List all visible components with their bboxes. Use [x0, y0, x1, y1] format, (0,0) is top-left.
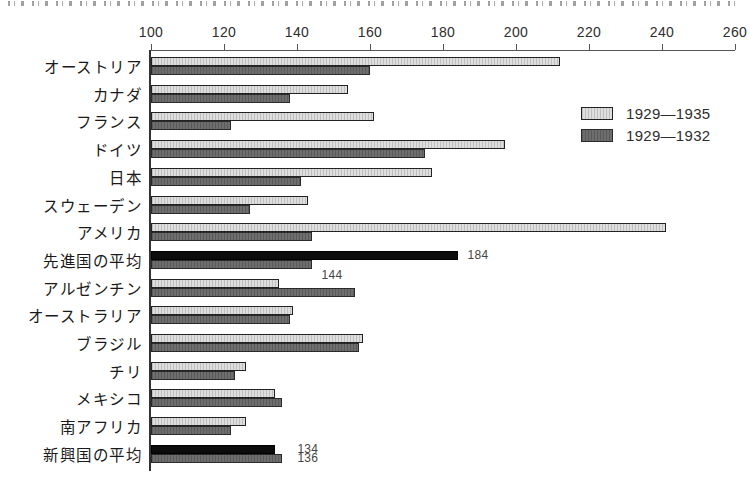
bar-1929—1935 [151, 334, 363, 343]
category-label: フランス [76, 110, 142, 132]
legend-swatch-dark [581, 129, 613, 142]
bar-1929—1932 [151, 454, 282, 463]
bar-1929—1935 [151, 445, 275, 454]
chart-row: 先進国の平均184144 [151, 251, 735, 271]
axis-tick-label: 180 [431, 24, 455, 40]
bar-1929—1932 [151, 371, 235, 380]
category-label: ドイツ [93, 138, 143, 160]
category-label: アメリカ [77, 221, 142, 243]
legend-item: 1929—1935 [581, 107, 710, 120]
chart-row: オーストラリア [151, 306, 735, 326]
bar-1929—1932 [151, 343, 359, 352]
chart-row: スウェーデン [151, 196, 735, 216]
axis-tick [151, 44, 152, 50]
legend-item: 1929—1932 [581, 129, 710, 142]
category-label: オーストラリア [28, 304, 143, 326]
axis-tick-label: 260 [723, 24, 747, 40]
category-label: 日本 [109, 166, 142, 188]
bar-1929—1932 [151, 260, 312, 269]
bar-1929—1932 [151, 288, 355, 297]
chart-row: アルゼンチン [151, 279, 735, 299]
chart-row: ブラジル [151, 334, 735, 354]
category-label: メキシコ [76, 387, 142, 409]
axis-tick-label: 120 [212, 24, 236, 40]
axis-tick [370, 44, 371, 50]
category-label: 南アフリカ [60, 415, 143, 437]
chart-row: カナダ [151, 85, 735, 105]
bar-1929—1935 [151, 362, 246, 371]
chart-row: 新興国の平均134136 [151, 445, 735, 465]
bar-1929—1932 [151, 426, 231, 435]
bar-1929—1935 [151, 389, 275, 398]
axis-tick [297, 44, 298, 50]
axis-tick-label: 160 [358, 24, 382, 40]
bar-1929—1935 [151, 85, 348, 94]
bar-1929—1932 [151, 232, 312, 241]
legend-label: 1929—1932 [626, 127, 710, 144]
chart-figure: 100120140160180200220240260オーストリアカナダフランス… [0, 0, 750, 493]
bar-1929—1932 [151, 177, 301, 186]
top-axis-line [151, 50, 735, 51]
axis-tick [589, 44, 590, 50]
axis-tick [443, 44, 444, 50]
axis-tick [224, 44, 225, 50]
axis-tick [735, 44, 736, 50]
axis-tick [516, 44, 517, 50]
axis-tick-label: 100 [139, 24, 163, 40]
legend-label: 1929—1935 [626, 105, 710, 122]
axis-tick-label: 240 [650, 24, 674, 40]
chart-row: 南アフリカ [151, 417, 735, 437]
axis-tick-label: 220 [577, 24, 601, 40]
value-label: 136 [297, 452, 318, 464]
bar-1929—1935 [151, 112, 374, 121]
category-label: ブラジル [76, 332, 142, 354]
bar-1929—1935 [151, 140, 505, 149]
value-label: 184 [468, 249, 489, 261]
legend: 1929—19351929—1932 [581, 107, 710, 151]
bar-1929—1935 [151, 223, 666, 232]
bar-1929—1932 [151, 94, 290, 103]
chart-row: メキシコ [151, 389, 735, 409]
axis-tick [662, 44, 663, 50]
category-label: チリ [109, 360, 142, 382]
chart-row: 日本 [151, 168, 735, 188]
bar-1929—1935 [151, 306, 293, 315]
chart-row: オーストリア [151, 57, 735, 77]
legend-swatch-light [581, 107, 613, 120]
bar-1929—1935 [151, 417, 246, 426]
axis-tick-label: 140 [285, 24, 309, 40]
bar-1929—1935 [151, 57, 560, 66]
bar-1929—1932 [151, 66, 370, 75]
bar-1929—1932 [151, 205, 250, 214]
bar-1929—1932 [151, 121, 231, 130]
axis-tick-label: 200 [504, 24, 528, 40]
chart-row: チリ [151, 362, 735, 382]
bar-1929—1932 [151, 149, 425, 158]
bar-1929—1935 [151, 196, 308, 205]
category-label: スウェーデン [43, 194, 142, 216]
category-label: オーストリア [44, 55, 142, 77]
bar-1929—1935 [151, 168, 432, 177]
category-label: 新興国の平均 [43, 443, 142, 465]
bar-1929—1932 [151, 398, 282, 407]
category-label: 先進国の平均 [43, 249, 142, 271]
chart-row: アメリカ [151, 223, 735, 243]
bar-1929—1935 [151, 279, 279, 288]
bar-1929—1932 [151, 315, 290, 324]
category-label: カナダ [93, 83, 143, 105]
clipped-caption-text [8, 1, 738, 6]
bar-1929—1935 [151, 251, 458, 260]
category-label: アルゼンチン [43, 277, 142, 299]
